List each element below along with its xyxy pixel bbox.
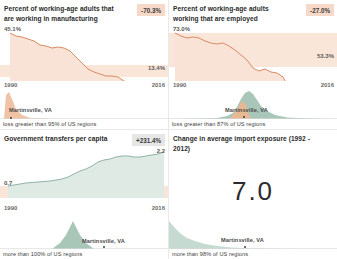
location-marker-dot [103, 246, 105, 248]
panel-header: Government transfers per capita +231.4% [0, 130, 168, 146]
panel-title: Government transfers per capita [4, 134, 107, 144]
sparkline-svg [0, 148, 169, 204]
value-label-end: 13.4% [148, 65, 165, 71]
x-axis-start: 1990 [4, 82, 17, 88]
distribution-svg [0, 89, 169, 119]
value-label-end: 2.2 [157, 148, 165, 154]
value-label-start: 73.0% [173, 26, 190, 32]
x-axis-start: 1990 [173, 82, 186, 88]
sparkline-chart: 73.0% 53.3% [169, 25, 337, 81]
location-marker-label: Martinsville, VA [82, 238, 125, 244]
value-label-start: 45.1% [4, 26, 21, 32]
big-value: 7.0 [169, 176, 337, 207]
panel-header: Percent of working-age adults that are w… [0, 0, 168, 23]
distribution-caption: more than 100% of US regions [3, 251, 82, 257]
sparkline-svg [0, 25, 169, 81]
sparkline-chart: 45.1% 13.4% [0, 25, 168, 81]
distribution-caption: more than 98% of US regions [172, 251, 248, 257]
distribution-svg [169, 89, 337, 119]
x-axis-end: 2016 [152, 205, 165, 211]
axis-labels: 1990 2016 [0, 81, 168, 88]
panel-header: Percent of working-age adults working th… [169, 0, 337, 23]
location-marker-dot [243, 116, 245, 118]
distribution-svg [0, 219, 169, 249]
value-label-start: 0.7 [4, 180, 12, 186]
panel-title: Percent of working-age adults that are w… [4, 4, 116, 23]
distribution-caption: loss greater than 95% of US regions [3, 121, 96, 127]
value-label-end: 53.3% [317, 53, 334, 59]
x-axis-start: 1990 [4, 205, 17, 211]
panel-employment: Percent of working-age adults working th… [169, 0, 337, 130]
dashboard-grid: Percent of working-age adults that are w… [0, 0, 337, 259]
distribution-area [169, 221, 337, 249]
distribution-area [4, 92, 169, 119]
status-badge: -70.3% [137, 4, 165, 16]
distribution-caption: loss greater than 87% of US regions [172, 121, 265, 127]
x-axis-end: 2016 [321, 82, 334, 88]
panel-transfers: Government transfers per capita +231.4% … [0, 130, 169, 259]
axis-labels: 1990 2016 [0, 204, 168, 211]
panel-header: Change in average import exposure (1992 … [169, 130, 337, 153]
sparkline-svg [169, 25, 337, 81]
panel-import-exposure: Change in average import exposure (1992 … [169, 130, 337, 259]
status-badge: +231.4% [132, 134, 165, 146]
panel-manufacturing: Percent of working-age adults that are w… [0, 0, 169, 130]
location-marker-dot [244, 246, 246, 248]
location-marker-label: Martinsville, VA [221, 237, 264, 243]
status-badge: -27.0% [306, 4, 334, 16]
axis-labels: 1990 2016 [169, 81, 337, 88]
location-marker-dot [10, 117, 12, 119]
x-axis-end: 2016 [152, 82, 165, 88]
panel-title: Change in average import exposure (1992 … [173, 134, 323, 153]
distribution-area [169, 91, 337, 119]
panel-title: Percent of working-age adults working th… [173, 4, 285, 23]
area-fill [8, 152, 164, 198]
distribution-area [52, 221, 94, 249]
distribution-svg [169, 219, 337, 249]
location-marker-label: Martinsville, VA [9, 107, 52, 113]
sparkline-chart: 0.7 2.2 [0, 148, 168, 204]
location-marker-label: Martinsville, VA [225, 107, 268, 113]
